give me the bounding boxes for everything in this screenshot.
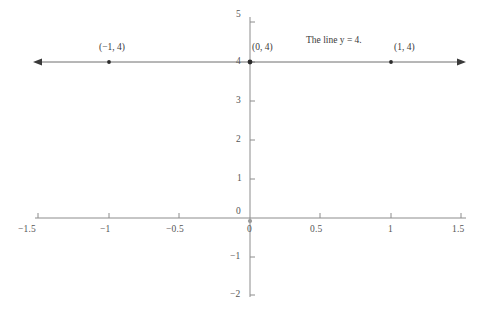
line-equation-annotation: The line y = 4.: [306, 35, 362, 45]
coordinate-plane-graph: [0, 0, 490, 318]
x-tick-label-1-5: 1.5: [452, 224, 464, 234]
x-tick-label-0-5: 0.5: [310, 224, 322, 234]
x-tick-label-0: 0: [247, 224, 252, 234]
y-tick-label-5: 5: [236, 9, 241, 19]
y-axis: [248, 17, 255, 297]
point-label-0-4: (0, 4): [252, 42, 273, 52]
y-tick-label-1: 1: [237, 173, 242, 183]
y-tick-label-neg-1: −1: [230, 251, 241, 261]
y-tick-label-2: 2: [236, 134, 241, 144]
point-marker-neg1-4: [107, 60, 111, 64]
left-arrowhead-icon: [33, 59, 42, 66]
y-tick-label-4: 4: [236, 56, 241, 66]
x-tick-label-neg-0-5: −0.5: [166, 224, 184, 234]
right-arrowhead-icon: [457, 59, 466, 66]
point-label-neg1-4: (−1, 4): [99, 42, 125, 52]
point-marker-1-4: [389, 60, 393, 64]
y-tick-label-neg-2: −2: [230, 289, 241, 299]
origin-dot: [248, 219, 252, 223]
point-marker-0-4: [248, 60, 253, 65]
x-tick-label-neg-1: −1: [100, 224, 111, 234]
point-label-1-4: (1, 4): [394, 42, 415, 52]
y-tick-label-0: 0: [236, 206, 241, 216]
y-tick-label-3: 3: [236, 95, 241, 105]
x-tick-label-neg-1-5: −1.5: [18, 224, 36, 234]
x-tick-label-1: 1: [388, 224, 393, 234]
